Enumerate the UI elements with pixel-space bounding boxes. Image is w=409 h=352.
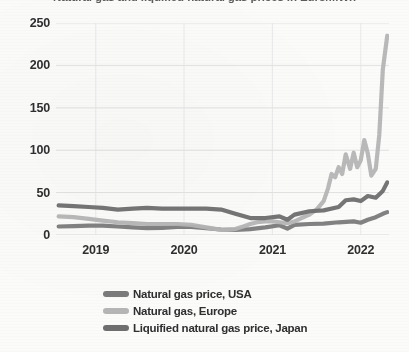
y-axis-tick-label: 0 <box>0 228 50 242</box>
y-axis-tick-label: 50 <box>0 186 50 200</box>
y-axis-tick-label: 200 <box>0 58 50 72</box>
series-line-1 <box>59 36 388 230</box>
legend-item-label: Liquified natural gas price, Japan <box>133 322 307 334</box>
chart-legend: Natural gas price, USANatural gas, Europ… <box>103 286 363 337</box>
x-axis-tick-label: 2019 <box>82 243 109 257</box>
chart-title: Natural gas and liquified natural gas pr… <box>0 0 409 6</box>
y-axis-tick-label: 100 <box>0 143 50 157</box>
legend-item-0[interactable]: Natural gas price, USA <box>103 286 363 302</box>
legend-color-swatch <box>103 291 129 297</box>
x-axis-tick-label: 2022 <box>347 243 374 257</box>
x-axis-tick-label: 2021 <box>259 243 286 257</box>
series-line-2 <box>59 182 388 219</box>
series-lines <box>59 36 388 230</box>
y-axis: 050100150200250 <box>0 23 50 235</box>
x-axis: 2019202020212022 <box>56 243 389 263</box>
legend-item-label: Natural gas, Europe <box>133 305 237 317</box>
chart-plot-svg <box>56 23 389 235</box>
legend-color-swatch <box>103 325 129 331</box>
legend-item-1[interactable]: Natural gas, Europe <box>103 303 363 319</box>
legend-item-2[interactable]: Liquified natural gas price, Japan <box>103 320 363 336</box>
gridlines <box>56 23 389 235</box>
y-axis-tick-label: 150 <box>0 101 50 115</box>
legend-color-swatch <box>103 308 129 314</box>
y-axis-tick-label: 250 <box>0 16 50 30</box>
plot-area <box>56 23 389 235</box>
legend-item-label: Natural gas price, USA <box>133 288 251 300</box>
chart-container: Natural gas and liquified natural gas pr… <box>0 0 409 352</box>
x-axis-tick-label: 2020 <box>171 243 198 257</box>
